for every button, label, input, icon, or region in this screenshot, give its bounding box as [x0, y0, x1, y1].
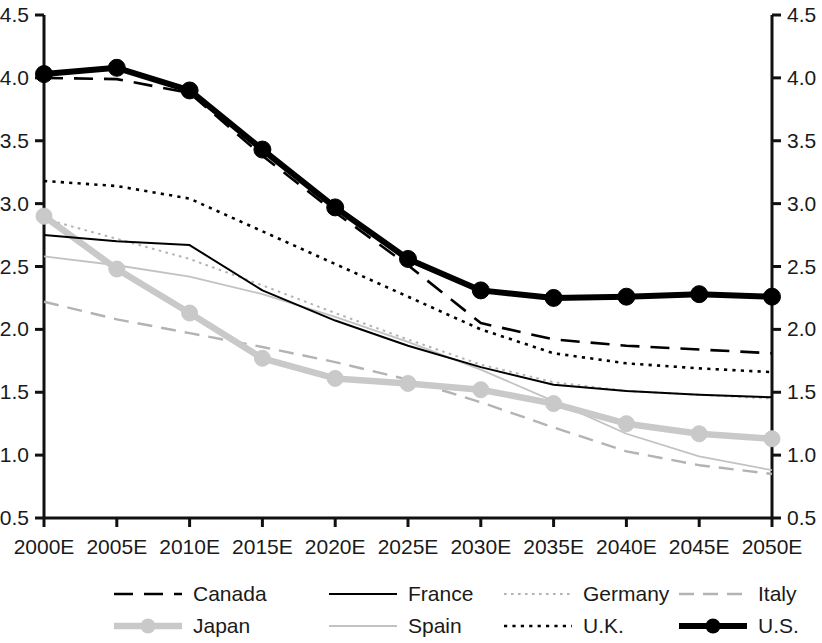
data-point-marker [400, 250, 417, 267]
y-axis-tick-label-left: 2.5 [0, 255, 29, 278]
x-axis-tick-label: 2025E [378, 535, 439, 558]
legend-item-canada[interactable]: Canada [112, 579, 327, 609]
legend-label: U.S. [758, 614, 799, 638]
series-line-canada [44, 78, 772, 353]
y-axis-tick-label-right: 4.0 [787, 66, 816, 89]
chart-page: 0.50.51.01.01.51.52.02.02.52.53.03.03.53… [0, 0, 822, 643]
y-axis-tick-label-left: 1.0 [0, 443, 29, 466]
x-axis-tick-label: 2015E [232, 535, 293, 558]
x-axis-tick-label: 2040E [596, 535, 657, 558]
data-point-marker [254, 350, 270, 366]
legend-swatch-germany [502, 583, 574, 605]
data-point-marker [36, 66, 53, 83]
y-axis-tick-label-right: 2.5 [787, 255, 816, 278]
series-japan [36, 208, 780, 447]
y-axis-tick-label-left: 2.0 [0, 317, 29, 340]
legend-item-japan[interactable]: Japan [112, 611, 327, 641]
legend-label: Italy [758, 582, 797, 606]
legend-marker [141, 619, 156, 634]
data-point-marker [400, 375, 416, 391]
line-chart: 0.50.51.01.01.51.52.02.02.52.53.03.03.53… [0, 0, 822, 580]
data-point-marker [36, 208, 52, 224]
legend-item-us[interactable]: U.S. [677, 611, 822, 641]
y-axis-tick-label-right: 3.0 [787, 192, 816, 215]
x-axis-tick-label: 2005E [86, 535, 147, 558]
x-axis-tick-label: 2030E [450, 535, 511, 558]
y-axis-tick-label-left: 3.0 [0, 192, 29, 215]
data-point-marker [472, 282, 489, 299]
series-uk [44, 181, 772, 372]
y-axis-tick-label-right: 2.0 [787, 317, 816, 340]
data-point-marker [181, 82, 198, 99]
y-axis-tick-label-right: 4.5 [787, 3, 816, 26]
y-axis-tick-label-right: 3.5 [787, 129, 816, 152]
series-line-uk [44, 181, 772, 372]
data-point-marker [108, 59, 125, 76]
data-point-marker [254, 141, 271, 158]
series-line-germany [44, 219, 772, 399]
y-axis-tick-label-left: 4.0 [0, 66, 29, 89]
legend-swatch-italy [677, 583, 749, 605]
legend-swatch-uk [502, 615, 574, 637]
x-axis-tick-label: 2045E [669, 535, 730, 558]
chart-legend: CanadaFranceGermanyItalyJapanSpainU.K.U.… [0, 578, 822, 643]
legend-label: Japan [193, 614, 250, 638]
legend-swatch-france [327, 583, 399, 605]
chart-canvas: 0.50.51.01.01.51.52.02.02.52.53.03.03.53… [0, 0, 822, 580]
x-axis-tick-label: 2020E [305, 535, 366, 558]
legend-label: Spain [408, 614, 462, 638]
y-axis-tick-label-left: 4.5 [0, 3, 29, 26]
legend-item-germany[interactable]: Germany [502, 579, 677, 609]
series-germany [44, 219, 772, 399]
legend-swatch-canada [112, 583, 184, 605]
data-point-marker [618, 416, 634, 432]
y-axis-tick-label-left: 3.5 [0, 129, 29, 152]
legend-item-italy[interactable]: Italy [677, 579, 822, 609]
series-canada [44, 78, 772, 353]
legend-swatch-spain [327, 615, 399, 637]
data-point-marker [473, 382, 489, 398]
data-point-marker [545, 289, 562, 306]
legend-label: Germany [583, 582, 669, 606]
data-point-marker [109, 261, 125, 277]
legend-label: U.K. [583, 614, 624, 638]
data-point-marker [327, 199, 344, 216]
data-point-marker [182, 305, 198, 321]
legend-swatch-japan [112, 615, 184, 637]
data-point-marker [764, 431, 780, 447]
legend-item-spain[interactable]: Spain [327, 611, 502, 641]
data-point-marker [691, 286, 708, 303]
y-axis-tick-label-right: 1.5 [787, 380, 816, 403]
y-axis-tick-label-right: 1.0 [787, 443, 816, 466]
legend-swatch-us [677, 615, 749, 637]
data-point-marker [764, 288, 781, 305]
data-point-marker [327, 370, 343, 386]
data-point-marker [691, 426, 707, 442]
data-point-marker [546, 396, 562, 412]
x-axis-tick-label: 2050E [742, 535, 803, 558]
x-axis-tick-label: 2035E [523, 535, 584, 558]
legend-item-france[interactable]: France [327, 579, 502, 609]
legend-item-uk[interactable]: U.K. [502, 611, 677, 641]
x-axis-tick-label: 2000E [14, 535, 75, 558]
y-axis-tick-label-right: 0.5 [787, 506, 816, 529]
legend-label: Canada [193, 582, 267, 606]
y-axis-tick-label-left: 1.5 [0, 380, 29, 403]
data-point-marker [618, 288, 635, 305]
legend-label: France [408, 582, 473, 606]
legend-marker [706, 619, 721, 634]
y-axis-tick-label-left: 0.5 [0, 506, 29, 529]
x-axis-tick-label: 2010E [159, 535, 220, 558]
